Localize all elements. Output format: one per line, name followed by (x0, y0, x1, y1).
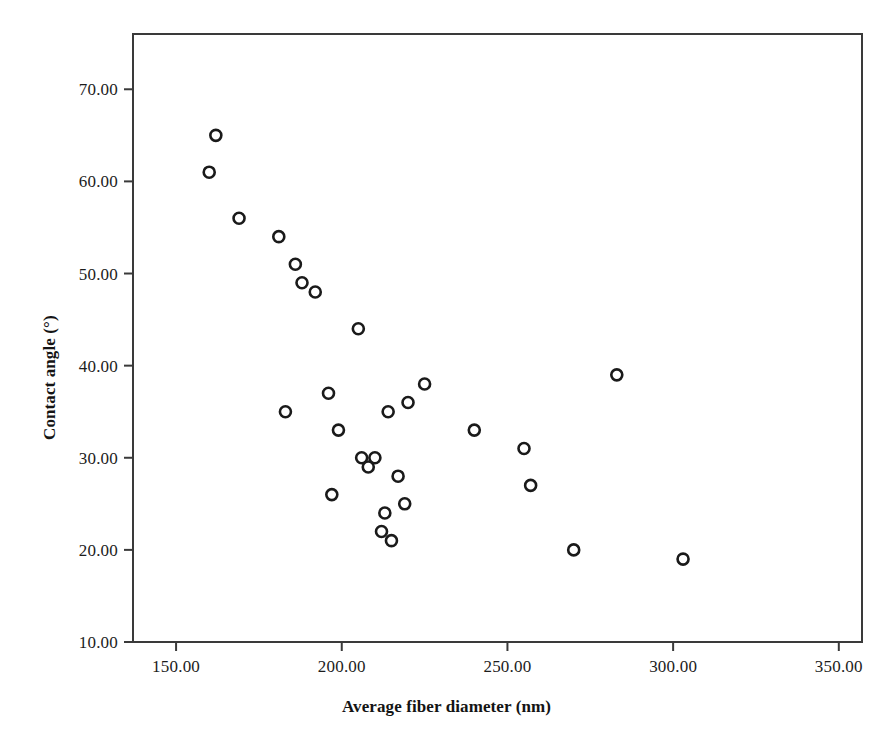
data-point (204, 167, 215, 178)
data-point (290, 259, 301, 270)
y-tick-label: 70.00 (79, 80, 118, 99)
data-point (611, 369, 622, 380)
data-point (393, 471, 404, 482)
data-point (234, 213, 245, 224)
axes-frame (133, 34, 862, 642)
data-point (273, 231, 284, 242)
data-point (333, 425, 344, 436)
data-point (376, 526, 387, 537)
y-tick-label: 20.00 (79, 541, 118, 560)
x-axis-title: Average fiber diameter (nm) (0, 697, 893, 717)
x-tick-label: 250.00 (483, 657, 531, 676)
x-tick-label: 200.00 (318, 657, 366, 676)
data-point (386, 535, 397, 546)
data-point (403, 397, 414, 408)
data-point (297, 277, 308, 288)
data-point (310, 286, 321, 297)
data-point (323, 388, 334, 399)
plot-frame (133, 34, 862, 642)
x-tick-label: 300.00 (649, 657, 697, 676)
data-point (326, 489, 337, 500)
data-point (519, 443, 530, 454)
x-axis-ticks: 150.00200.00250.00300.00350.00 (152, 642, 863, 676)
data-point (210, 130, 221, 141)
y-tick-label: 60.00 (79, 172, 118, 191)
data-point (469, 425, 480, 436)
data-point (379, 508, 390, 519)
data-point (353, 323, 364, 334)
plot-canvas: 150.00200.00250.00300.00350.00 10.0020.0… (0, 0, 893, 740)
y-tick-label: 30.00 (79, 449, 118, 468)
y-axis-ticks: 10.0020.0030.0040.0050.0060.0070.00 (79, 80, 133, 652)
scatter-plot-figure: 150.00200.00250.00300.00350.00 10.0020.0… (0, 0, 893, 740)
x-tick-label: 150.00 (152, 657, 200, 676)
x-tick-label: 350.00 (815, 657, 863, 676)
y-tick-label: 50.00 (79, 265, 118, 284)
data-point (383, 406, 394, 417)
data-point-group (204, 130, 689, 565)
data-point (678, 554, 689, 565)
data-point (419, 379, 430, 390)
y-axis-title: Contact angle (°) (40, 315, 60, 440)
data-point (525, 480, 536, 491)
data-point (280, 406, 291, 417)
y-tick-label: 40.00 (79, 357, 118, 376)
data-point (363, 461, 374, 472)
y-tick-label: 10.00 (79, 633, 118, 652)
data-point (568, 544, 579, 555)
data-point (399, 498, 410, 509)
